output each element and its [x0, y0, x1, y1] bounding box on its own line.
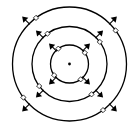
concentric-circles-diagram — [0, 0, 132, 129]
center-dot — [68, 63, 71, 66]
